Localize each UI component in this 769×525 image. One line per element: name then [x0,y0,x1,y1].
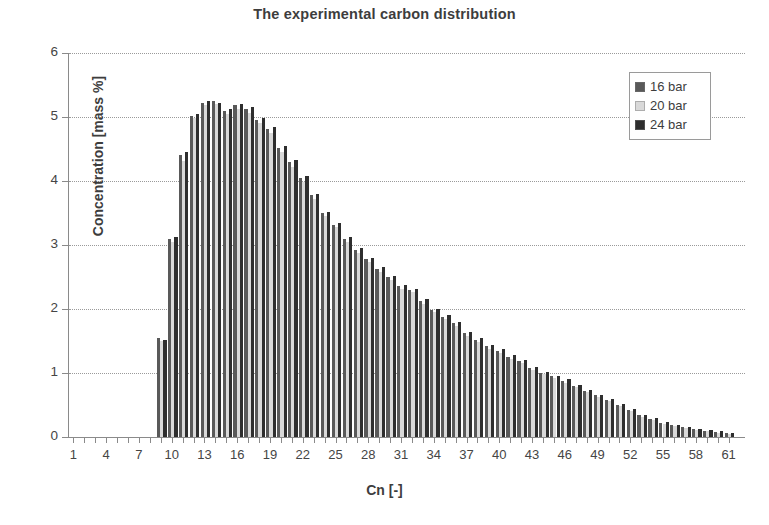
x-axis-tick-label: 25 [328,447,342,462]
x-axis-tick [226,437,227,443]
x-axis-tick [281,437,282,443]
bar [469,332,472,437]
bar [349,237,352,437]
x-axis-tick [510,437,511,443]
x-axis-tick-label: 40 [492,447,506,462]
bar [644,415,647,437]
chart-figure: The experimental carbon distribution 012… [0,0,769,525]
x-axis-tick [609,437,610,443]
bar [273,127,276,437]
x-axis-tick [412,437,413,443]
x-axis-tick [401,437,402,443]
bar [502,349,505,437]
bar [557,376,560,437]
bar [218,103,221,437]
x-axis-tick [598,437,599,443]
x-axis-tick [587,437,588,443]
x-axis-tick [630,437,631,443]
x-axis-tick-label: 31 [394,447,408,462]
x-axis-tick [128,437,129,443]
x-axis-tick [565,437,566,443]
bar [294,160,297,437]
bar [305,176,308,437]
x-axis-tick [303,437,304,443]
bar [578,385,581,437]
x-axis-tick [488,437,489,443]
bar [655,418,658,437]
x-axis-tick-label: 43 [525,447,539,462]
bar [229,109,232,437]
bar [611,399,614,437]
y-axis-tick-label: 2 [36,300,58,315]
legend-item[interactable]: 24 bar [635,115,705,134]
y-axis-title: Concentration [mass %] [90,46,106,266]
chart-legend: 16 bar20 bar24 bar [629,72,711,140]
x-axis-tick [215,437,216,443]
bar [688,427,691,437]
x-axis-tick-label: 19 [263,447,277,462]
bar [535,367,538,437]
x-axis-tick-label: 1 [70,447,77,462]
bar [163,340,166,437]
bar [633,409,636,437]
bar [447,315,450,437]
legend-item[interactable]: 16 bar [635,77,705,96]
bar [284,146,287,437]
x-axis-title: Cn [-] [0,482,769,498]
x-axis-tick [204,437,205,443]
bar [666,422,669,437]
x-axis-tick [259,437,260,443]
x-axis-tick [379,437,380,443]
bar [589,390,592,437]
bar [251,107,254,437]
x-axis-tick-label: 22 [296,447,310,462]
x-axis-tick-label: 34 [427,447,441,462]
legend-label: 16 bar [650,79,687,94]
x-axis-tick [456,437,457,443]
y-axis-tick-label: 3 [36,236,58,251]
bar [327,212,330,437]
x-axis-tick [434,437,435,443]
legend-label: 20 bar [650,98,687,113]
x-axis-tick-label: 37 [459,447,473,462]
x-axis-tick-labels: 147101316192225283134374043464952555861 [0,447,769,469]
bar [262,118,265,437]
x-axis-tick [707,437,708,443]
bar [371,258,374,437]
y-axis-tick-label: 4 [36,172,58,187]
x-axis-tick [325,437,326,443]
legend-item[interactable]: 20 bar [635,96,705,115]
x-axis-tick-label: 58 [689,447,703,462]
x-axis-tick [106,437,107,443]
x-axis-tick [467,437,468,443]
x-axis-tick [336,437,337,443]
y-axis-tick-label: 6 [36,44,58,59]
bar [709,430,712,437]
legend-swatch-icon [635,120,645,130]
x-axis-tick [237,437,238,443]
bar [404,285,407,437]
x-axis-tick [194,437,195,443]
x-axis-tick-label: 61 [721,447,735,462]
bar [524,360,527,437]
x-axis-tick-label: 52 [623,447,637,462]
x-axis-tick [357,437,358,443]
x-axis-tick [84,437,85,443]
x-axis-tick [554,437,555,443]
x-axis-tick-label: 13 [197,447,211,462]
x-axis-tick [248,437,249,443]
x-axis-tick [543,437,544,443]
bar [207,101,210,437]
x-axis-tick [663,437,664,443]
x-axis-tick [696,437,697,443]
bar [196,114,199,437]
x-axis-tick [532,437,533,443]
x-axis-tick [619,437,620,443]
legend-label: 24 bar [650,117,687,132]
legend-swatch-icon [635,82,645,92]
bar [185,152,188,437]
x-axis-tick [423,437,424,443]
x-axis-tick [368,437,369,443]
x-axis-tick-label: 49 [590,447,604,462]
x-axis-tick [576,437,577,443]
